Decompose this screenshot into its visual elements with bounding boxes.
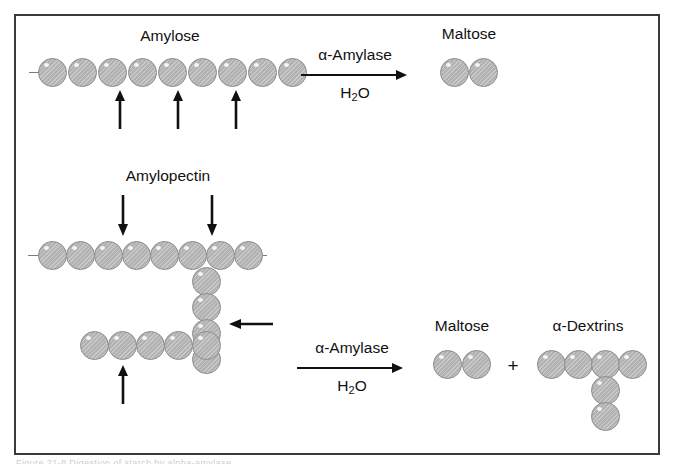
reaction-arrow-head-bottom	[392, 363, 403, 373]
amylopectin-branch-unit	[192, 267, 221, 296]
maltose-unit	[469, 58, 498, 87]
amylopectin-main-unit	[66, 241, 95, 270]
reaction-arrow-shaft-top	[301, 74, 397, 76]
reaction-cosubstrate-label-bottom: H2O	[337, 378, 366, 398]
amylopectin-side-unit	[164, 331, 193, 360]
amylopectin-main-unit	[94, 241, 123, 270]
amylose-unit	[158, 58, 187, 87]
alpha-dextrin-unit	[564, 350, 593, 379]
reaction-enzyme-label-top: α-Amylase	[318, 47, 392, 63]
amylose-unit	[38, 58, 67, 87]
h2o-o: O	[358, 84, 370, 101]
amylopectin-main-unit	[206, 241, 235, 270]
alpha-dextrin-branch-unit	[591, 402, 620, 431]
amylopectin-main-unit	[150, 241, 179, 270]
cleavage-arrow-up-icon	[117, 363, 129, 405]
amylose-unit	[68, 58, 97, 87]
amylopectin-side-unit	[136, 331, 165, 360]
amylopectin-main-unit	[38, 241, 67, 270]
figure-root: Amylose α-Amylase H2O Maltose Amylopecti…	[0, 0, 674, 466]
branch-point-arrow-left-icon	[228, 318, 274, 330]
plus-sign: +	[507, 356, 518, 375]
amylopectin-main-unit	[234, 241, 263, 270]
amylopectin-main-unit	[122, 241, 151, 270]
reaction-arrow-head-top	[396, 70, 407, 80]
maltose-unit	[440, 58, 469, 87]
amylopectin-pointer-arrow-down-icon	[206, 193, 218, 237]
reaction-arrow-shaft-bottom	[297, 367, 393, 369]
amylose-unit	[98, 58, 127, 87]
maltose-unit	[462, 350, 491, 379]
amylose-unit	[248, 58, 277, 87]
amylopectin-label: Amylopectin	[126, 168, 210, 184]
reaction-enzyme-label-bottom: α-Amylase	[315, 340, 389, 356]
alpha-dextrin-unit	[537, 350, 566, 379]
cleavage-arrow-up-icon	[230, 88, 242, 130]
amylose-unit	[128, 58, 157, 87]
alpha-dextrin-unit	[591, 350, 620, 379]
reaction-cosubstrate-label-top: H2O	[340, 85, 369, 105]
amylopectin-main-unit	[178, 241, 207, 270]
amylopectin-side-unit	[80, 331, 109, 360]
amylopectin-pointer-arrow-down-icon	[117, 193, 129, 237]
cleavage-arrow-up-icon	[114, 88, 126, 130]
alpha-dextrins-label: α-Dextrins	[553, 318, 624, 334]
maltose-label-bottom: Maltose	[435, 318, 489, 334]
maltose-unit	[433, 350, 462, 379]
amylopectin-side-unit	[108, 331, 137, 360]
amylose-unit	[188, 58, 217, 87]
h2o-o: O	[355, 377, 367, 394]
alpha-dextrin-unit	[618, 350, 647, 379]
h2o-h: H	[337, 377, 348, 394]
amylose-unit	[278, 58, 307, 87]
h2o-h: H	[340, 84, 351, 101]
maltose-label-top: Maltose	[442, 26, 496, 42]
amylopectin-branch-unit	[192, 293, 221, 322]
amylopectin-side-unit	[192, 331, 221, 360]
amylose-label: Amylose	[140, 28, 199, 44]
amylose-unit	[218, 58, 247, 87]
cleavage-arrow-up-icon	[172, 88, 184, 130]
alpha-dextrin-branch-unit	[591, 376, 620, 405]
caption-sliver: Figure 21-8 Digestion of starch by alpha…	[16, 459, 376, 464]
